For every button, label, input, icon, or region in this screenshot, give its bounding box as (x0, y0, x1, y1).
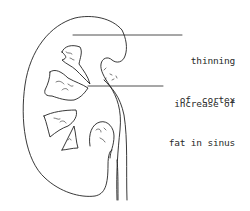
label-increase-of-fat-in-sinus: increase of fat in sinus (169, 71, 235, 175)
kidney-outline (23, 17, 126, 201)
label-fat-line2: fat in sinus (169, 136, 235, 149)
kidney-diagram: thinning of cortex increase of fat in si… (0, 0, 250, 211)
label-cortex-line1: thinning (180, 54, 235, 67)
sinus-fat-texture (54, 52, 117, 142)
ureter-outer (104, 80, 127, 200)
calyx-bottom (62, 126, 78, 150)
calyx-lower (44, 110, 77, 137)
pelvis-lobe (89, 122, 114, 158)
calyx-top (62, 46, 90, 84)
label-fat-line1: increase of (169, 97, 235, 110)
calyx-middle (45, 70, 88, 100)
